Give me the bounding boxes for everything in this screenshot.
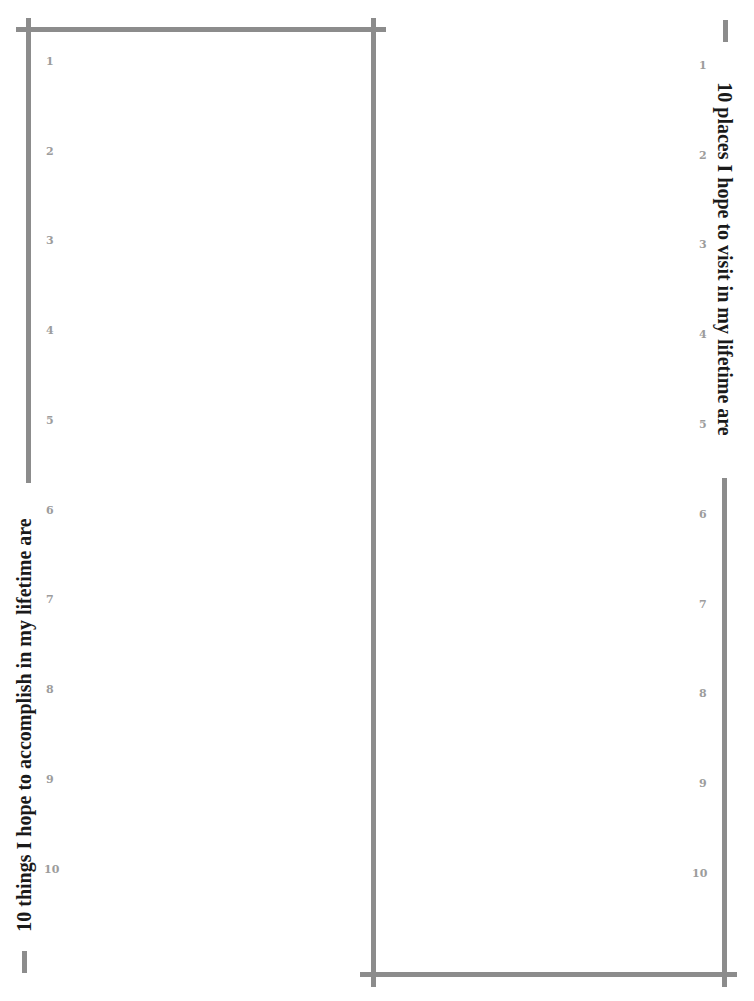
right-item-number-1: 1 <box>699 60 707 72</box>
right-item-number-7: 7 <box>699 599 707 611</box>
left-item-number-10: 10 <box>44 864 59 876</box>
left-frame-bottom-dash <box>22 951 27 973</box>
left-item-number-1: 1 <box>46 56 54 68</box>
left-item-number-5: 5 <box>46 415 54 427</box>
left-frame-vertical-line <box>26 18 31 483</box>
left-item-number-3: 3 <box>46 235 54 247</box>
right-panel-title: 10 places I hope to visit in my lifetime… <box>714 82 736 435</box>
right-item-number-3: 3 <box>699 239 707 251</box>
right-item-number-5: 5 <box>699 419 707 431</box>
right-frame-bottom-line <box>360 972 737 977</box>
right-item-number-6: 6 <box>699 509 707 521</box>
left-item-number-6: 6 <box>46 505 54 517</box>
right-item-number-10: 10 <box>692 868 707 880</box>
left-panel-title: 10 things I hope to accomplish in my lif… <box>13 518 35 932</box>
right-item-number-2: 2 <box>699 150 707 162</box>
left-frame-top-line <box>16 27 386 32</box>
right-frame-vertical-line <box>722 478 727 987</box>
left-item-number-8: 8 <box>46 684 54 696</box>
left-item-number-2: 2 <box>46 146 54 158</box>
right-item-number-8: 8 <box>699 688 707 700</box>
right-item-number-4: 4 <box>699 329 707 341</box>
left-item-number-7: 7 <box>46 594 54 606</box>
left-item-number-9: 9 <box>46 774 54 786</box>
center-divider-line <box>371 18 376 987</box>
right-frame-top-dash <box>723 20 728 42</box>
left-item-number-4: 4 <box>46 325 54 337</box>
right-item-number-9: 9 <box>699 778 707 790</box>
